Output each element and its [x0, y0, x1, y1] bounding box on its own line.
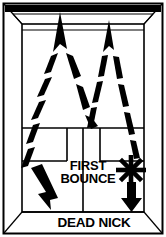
dead-nick-label: DEAD NICK	[57, 215, 131, 230]
starburst-icon	[116, 155, 146, 185]
court-diagram-canvas: FIRST BOUNCE DEAD NICK	[0, 0, 166, 237]
first-bounce-label-line2: BOUNCE	[60, 171, 116, 186]
squash-court-diagram: FIRST BOUNCE DEAD NICK	[0, 0, 166, 237]
front-wall-out-line	[5, 5, 161, 12]
